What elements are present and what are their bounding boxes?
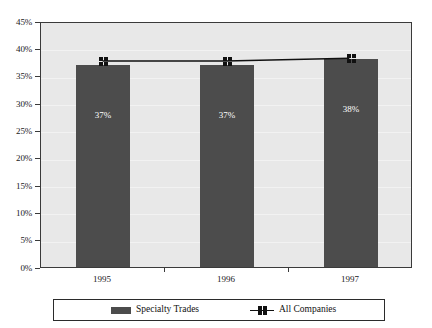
chart-container: 45%40%35%30%25%20%15%10%5%0% 37%37%38% 1… xyxy=(0,0,432,328)
x-axis: 199519961997 xyxy=(40,268,412,290)
x-axis-tick-label-1996: 1996 xyxy=(217,275,235,284)
y-axis-tick-label: 25% xyxy=(16,127,35,136)
legend-item-specialty-trades[interactable]: Specialty Trades xyxy=(111,305,199,315)
y-axis-tick-label: 0% xyxy=(20,264,35,273)
line-marker-1995[interactable] xyxy=(99,57,108,66)
y-axis-tick-label: 35% xyxy=(16,72,35,81)
legend-item-label: All Companies xyxy=(279,305,336,315)
y-axis-tick-label: 15% xyxy=(16,182,35,191)
y-axis-tick-label: 45% xyxy=(16,18,35,27)
line-marker-1997[interactable] xyxy=(347,54,356,63)
chart-legend: Specialty Trades All Companies xyxy=(53,299,385,321)
plot-area: 37%37%38% xyxy=(40,22,412,268)
x-axis-tick-mark xyxy=(288,268,289,272)
x-axis-tick-label-1995: 1995 xyxy=(93,275,111,284)
legend-item-all-companies[interactable]: All Companies xyxy=(250,305,336,315)
legend-line-marker-icon xyxy=(250,306,274,315)
x-axis-tick-label-1997: 1997 xyxy=(341,275,359,284)
y-axis-tick-label: 10% xyxy=(16,209,35,218)
y-axis-tick-label: 20% xyxy=(16,154,35,163)
bar-data-label-1995: 37% xyxy=(95,111,112,120)
y-axis-tick-label: 5% xyxy=(20,236,35,245)
legend-item-label: Specialty Trades xyxy=(136,305,199,315)
y-axis-tick-label: 40% xyxy=(16,45,35,54)
y-axis: 45%40%35%30%25%20%15%10%5%0% xyxy=(0,22,40,268)
line-marker-1996[interactable] xyxy=(223,57,232,66)
bar-data-label-1997: 38% xyxy=(343,105,360,114)
legend-swatch-icon xyxy=(111,307,131,314)
bar-data-label-1996: 37% xyxy=(219,111,236,120)
x-axis-tick-mark xyxy=(164,268,165,272)
y-axis-tick-label: 30% xyxy=(16,100,35,109)
